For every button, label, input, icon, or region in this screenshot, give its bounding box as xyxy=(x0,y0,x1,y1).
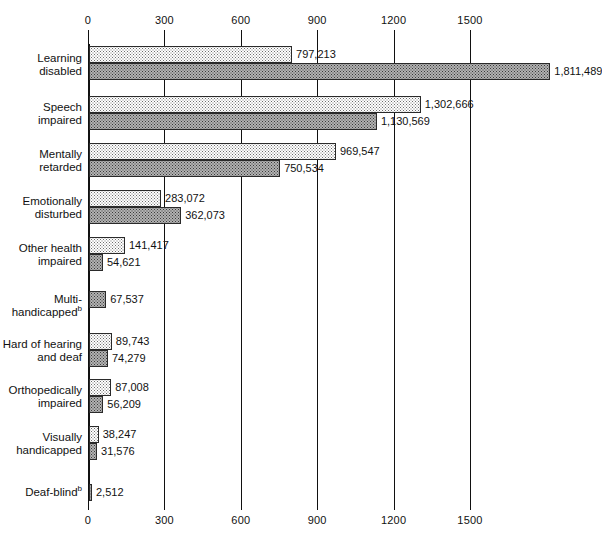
category-label-9: Deaf-blindb xyxy=(0,486,88,499)
category-label-4: Other healthimpaired xyxy=(0,242,88,267)
bar-8-0 xyxy=(89,426,99,443)
bar-7-0 xyxy=(89,379,111,396)
value-label-6-0: 89,743 xyxy=(112,333,150,350)
value-label-6-1: 74,279 xyxy=(108,350,146,367)
value-label-1-1: 1,130,569 xyxy=(377,113,430,130)
bar-5-1 xyxy=(89,291,106,308)
value-label-9-1: 2,512 xyxy=(92,484,124,501)
value-label-0-1: 1,811,489 xyxy=(550,63,602,80)
category-label-1: Speechimpaired xyxy=(0,101,88,126)
bar-2-0 xyxy=(89,143,336,160)
value-label-7-1: 56,209 xyxy=(103,396,141,413)
value-label-8-0: 38,247 xyxy=(99,426,137,443)
bar-4-1 xyxy=(89,254,103,271)
bar-7-1 xyxy=(89,396,103,413)
value-label-2-1: 750,534 xyxy=(280,160,324,177)
value-label-7-0: 87,008 xyxy=(111,379,149,396)
value-label-5-1: 67,537 xyxy=(106,291,144,308)
bar-0-1 xyxy=(89,63,550,80)
category-label-8: Visuallyhandicapped xyxy=(0,431,88,456)
bar-8-1 xyxy=(89,443,97,460)
category-label-5: Multi-handicappedb xyxy=(0,293,88,318)
category-label-7: Orthopedicallyimpaired xyxy=(0,384,88,409)
category-label-3: Emotionallydisturbed xyxy=(0,195,88,220)
value-label-8-1: 31,576 xyxy=(97,443,135,460)
bar-0-0 xyxy=(89,46,292,63)
value-label-1-0: 1,302,666 xyxy=(421,96,474,113)
bar-2-1 xyxy=(89,160,280,177)
bar-3-0 xyxy=(89,190,161,207)
bar-6-1 xyxy=(89,350,108,367)
bar-3-1 xyxy=(89,207,181,224)
value-label-0-0: 797,213 xyxy=(292,46,336,63)
category-label-2: Mentallyretarded xyxy=(0,148,88,173)
bar-1-1 xyxy=(89,113,377,130)
value-label-4-1: 54,621 xyxy=(103,254,141,271)
category-label-0: Learningdisabled xyxy=(0,52,88,77)
value-label-3-1: 362,073 xyxy=(181,207,225,224)
bar-1-0 xyxy=(89,96,421,113)
bar-6-0 xyxy=(89,333,112,350)
bar-4-0 xyxy=(89,237,125,254)
value-label-4-0: 141,417 xyxy=(125,237,169,254)
category-label-6: Hard of hearingand deaf xyxy=(0,338,88,363)
value-label-3-0: 283,072 xyxy=(161,190,205,207)
value-label-2-0: 969,547 xyxy=(336,143,380,160)
